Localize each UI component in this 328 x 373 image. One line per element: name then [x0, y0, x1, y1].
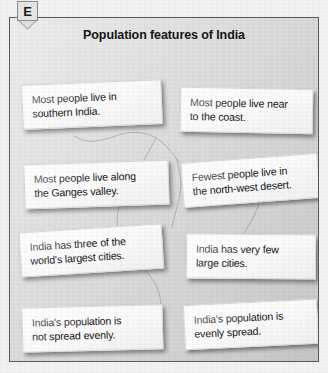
statement-card-text: Most people live along the Ganges valley…	[34, 168, 161, 200]
statement-card[interactable]: Most people live along the Ganges valley…	[23, 160, 169, 210]
worksheet-page: E Population features of India Most peop…	[0, 0, 328, 373]
statement-card-text: India has three of the world's largest c…	[29, 232, 155, 268]
statement-card-text: Fewest people live in the north-west des…	[191, 162, 311, 199]
statement-card[interactable]: Fewest people live in the north-west des…	[181, 153, 319, 208]
statement-card[interactable]: India's population is not spread evenly.	[21, 304, 163, 353]
statement-card-text: India's population is evenly spread.	[193, 307, 309, 341]
statement-card-text: India has very few large cities.	[196, 242, 307, 271]
statement-card[interactable]: Most people live in southern India.	[21, 79, 163, 130]
worksheet-panel: Population features of India Most people…	[9, 17, 319, 362]
statement-card[interactable]: India's population is evenly spread.	[183, 299, 319, 351]
section-tab-label: E	[23, 5, 32, 18]
statement-card[interactable]: India has three of the world's largest c…	[19, 224, 165, 278]
statement-card-text: India's population is not spread evenly.	[32, 312, 155, 343]
section-tab-badge: E	[17, 1, 38, 21]
statement-card-text: Most people live near to the coast.	[190, 95, 305, 125]
statement-card[interactable]: Most people live near to the coast.	[180, 87, 314, 135]
statement-card[interactable]: India has very few large cities.	[186, 233, 316, 279]
statement-card-text: Most people live in southern India.	[31, 87, 153, 120]
page-title: Population features of India	[10, 28, 318, 42]
